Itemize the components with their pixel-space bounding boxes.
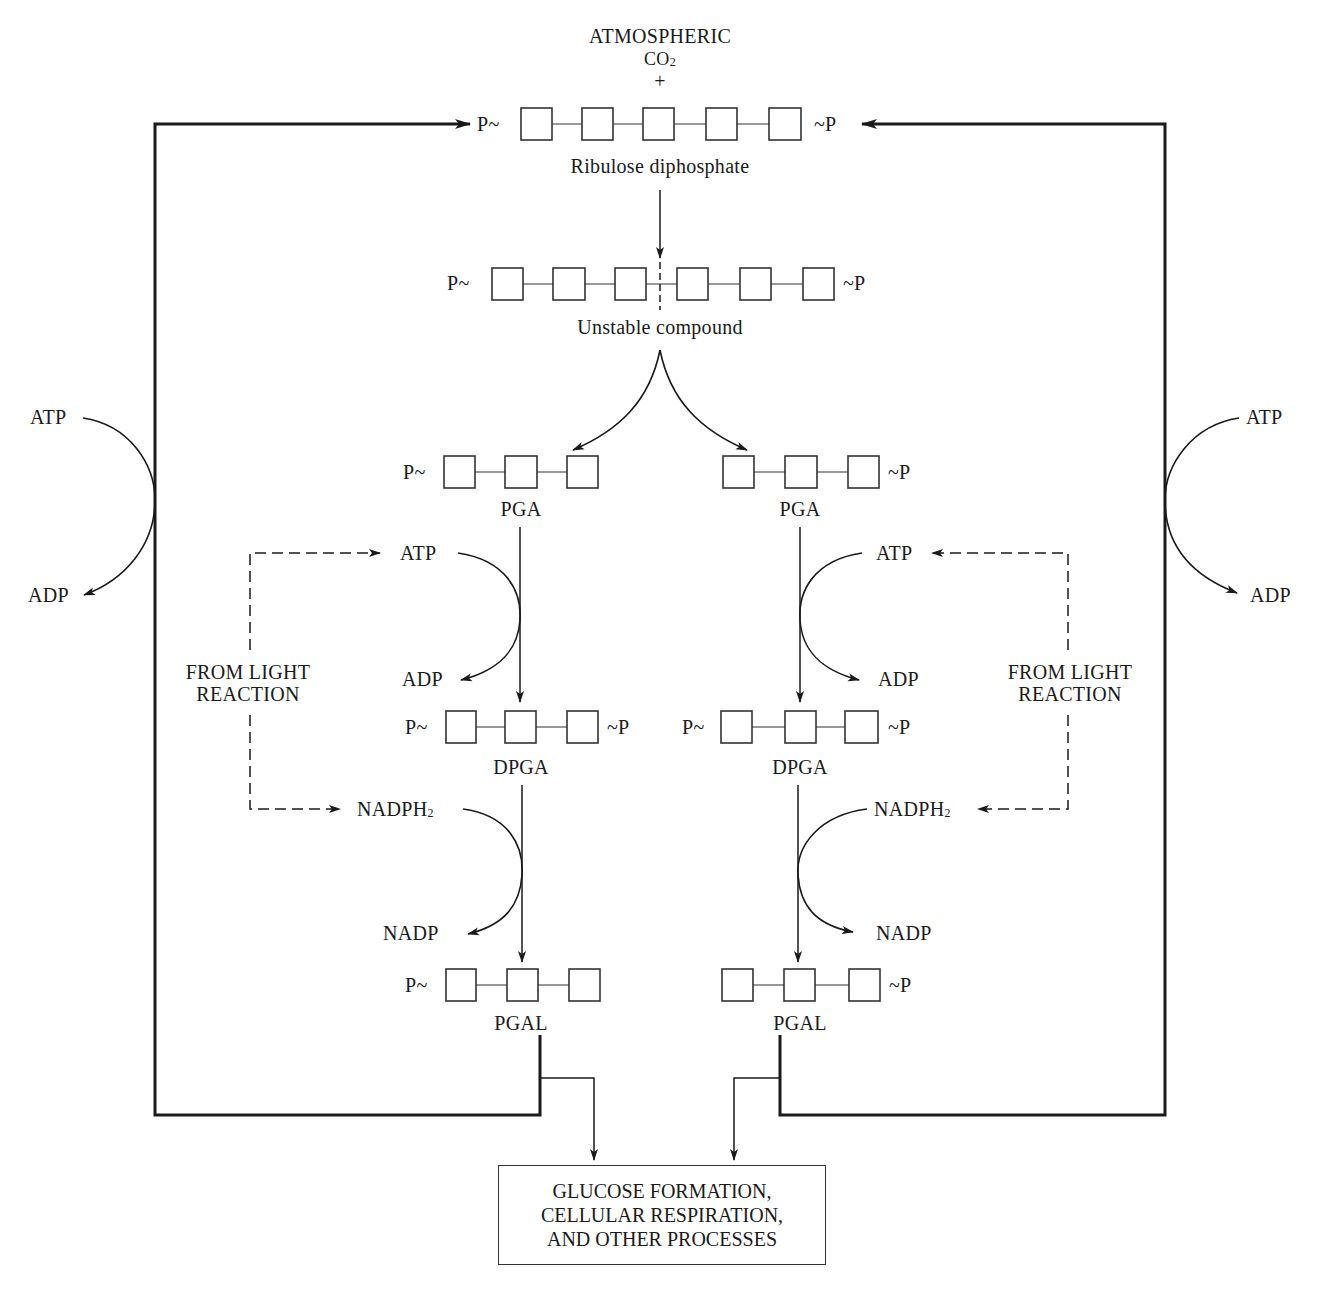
inner-left-atp-label: ATP: [400, 542, 436, 564]
pgal-right-label: PGAL: [773, 1012, 826, 1034]
light-reaction-right-line1: FROM LIGHT: [1008, 661, 1133, 683]
phosphate-left-pga: P~: [403, 461, 426, 483]
pgal-left-chain: [446, 969, 600, 1001]
pga-right-label: PGA: [780, 498, 821, 520]
nadp-left-label: NADP: [383, 922, 439, 944]
nadph-right-subscript: 2: [944, 806, 950, 820]
atp-adp-curve-outer-left: [83, 418, 155, 595]
co2-text: CO: [644, 49, 670, 69]
branch-pgal-right-to-output: [734, 1078, 780, 1160]
co2-subscript: 2: [670, 55, 676, 69]
nadph-right-text: NADPH: [874, 798, 944, 820]
light-reaction-left-line2: REACTION: [186, 683, 311, 705]
phosphate-right-pgal: ~P: [889, 974, 912, 996]
dpga-left-label: DPGA: [493, 756, 549, 778]
output-processes-box: GLUCOSE FORMATION, CELLULAR RESPIRATION,…: [498, 1165, 826, 1265]
outer-loop-right: [780, 124, 1165, 1115]
phosphate-left-dpga-right: P~: [682, 716, 705, 738]
phosphate-left-dpga-left: P~: [405, 716, 428, 738]
phosphate-right-pga: ~P: [888, 461, 911, 483]
atp-adp-curve-inner-left: [458, 553, 520, 680]
nadph2-right-label: NADPH2: [874, 798, 951, 824]
light-reaction-left-label: FROM LIGHT REACTION: [186, 661, 311, 705]
outer-loop-left: [155, 124, 540, 1115]
plus-sign: +: [654, 70, 666, 92]
phosphate-right-dpga-right: ~P: [888, 716, 911, 738]
ribulose-chain: [521, 108, 801, 140]
phosphate-left-pgal: P~: [405, 974, 428, 996]
atp-adp-curve-inner-right: [800, 553, 862, 680]
nadph-nadp-curve-right: [798, 809, 867, 932]
pga-right-chain: [723, 456, 879, 488]
pgal-left-label: PGAL: [494, 1012, 547, 1034]
inner-left-adp-label: ADP: [402, 668, 443, 690]
outer-right-atp-label: ATP: [1246, 406, 1282, 428]
pgal-right-chain: [722, 969, 880, 1001]
split-arrow-left: [573, 350, 660, 450]
output-box-line2: CELLULAR RESPIRATION,: [541, 1203, 783, 1227]
dpga-right-label: DPGA: [772, 756, 828, 778]
branch-pgal-left-to-output: [540, 1078, 594, 1160]
light-reaction-left-line1: FROM LIGHT: [186, 661, 311, 683]
output-box-line1: GLUCOSE FORMATION,: [553, 1179, 772, 1203]
unstable-compound-label: Unstable compound: [577, 316, 743, 338]
atp-adp-curve-outer-right: [1165, 418, 1239, 593]
nadph-left-text: NADPH: [357, 798, 427, 820]
light-reaction-right-line2: REACTION: [1008, 683, 1133, 705]
phosphate-right-ribulose: ~P: [814, 113, 837, 135]
unstable-chain: [492, 268, 834, 300]
phosphate-left-unstable: P~: [447, 272, 470, 294]
phosphate-right-unstable: ~P: [843, 272, 866, 294]
inner-right-atp-label: ATP: [876, 542, 912, 564]
nadph2-left-label: NADPH2: [357, 798, 434, 824]
light-reaction-right-label: FROM LIGHT REACTION: [1008, 661, 1133, 705]
phosphate-left-ribulose: P~: [477, 113, 500, 135]
pga-left-chain: [444, 456, 598, 488]
nadp-right-label: NADP: [876, 922, 932, 944]
diagram-canvas: [0, 0, 1327, 1298]
outer-left-adp-label: ADP: [28, 584, 69, 606]
outer-left-atp-label: ATP: [30, 406, 66, 428]
nadph-left-subscript: 2: [427, 806, 433, 820]
split-arrow-right: [660, 350, 747, 450]
atmospheric-label: ATMOSPHERIC: [589, 25, 731, 47]
phosphate-right-dpga-left: ~P: [607, 716, 630, 738]
pga-left-label: PGA: [501, 498, 542, 520]
inner-right-adp-label: ADP: [878, 668, 919, 690]
outer-right-adp-label: ADP: [1250, 584, 1291, 606]
dpga-right-chain: [721, 711, 878, 743]
output-box-line3: AND OTHER PROCESSES: [547, 1227, 777, 1251]
ribulose-label: Ribulose diphosphate: [571, 155, 750, 177]
dpga-left-chain: [446, 711, 598, 743]
nadph-nadp-curve-left: [463, 809, 522, 934]
